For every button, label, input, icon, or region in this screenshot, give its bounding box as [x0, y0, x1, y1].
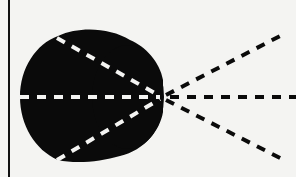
lower-ray-outer — [166, 100, 282, 159]
diagram-canvas — [0, 0, 296, 177]
upper-ray-outer — [166, 35, 282, 95]
outer-dashes — [166, 35, 296, 159]
